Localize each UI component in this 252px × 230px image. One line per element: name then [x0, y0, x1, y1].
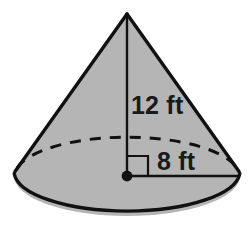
cone-figure: 12 ft 8 ft — [0, 0, 252, 230]
cone-diagram-svg — [0, 0, 252, 230]
cone-apex — [125, 13, 128, 16]
radius-label: 8 ft — [157, 149, 195, 174]
base-center-point — [122, 171, 133, 182]
height-label: 12 ft — [131, 93, 183, 118]
